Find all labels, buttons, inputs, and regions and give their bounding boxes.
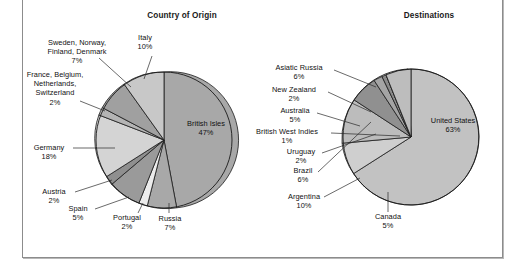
right-pie (342, 69, 479, 205)
left-center-label: British Isles 47% (176, 119, 236, 138)
label-germany: Germany 18% (24, 143, 74, 161)
slice-british-isles (164, 72, 239, 208)
label-russia: Russia 7% (150, 214, 190, 232)
label-italy: Italy 10% (124, 33, 166, 51)
label-british-west-indies: British West Indies 1% (243, 127, 331, 145)
right-center-label-name: United States (420, 116, 486, 125)
label-austria: Austria 2% (33, 187, 75, 205)
label-brazil: Brazil 6% (284, 166, 322, 184)
label-canada: Canada 5% (367, 212, 409, 230)
label-argentina: Argentina 10% (278, 192, 330, 210)
right-center-label: United States 63% (420, 116, 486, 135)
label-spain: Spain 5% (60, 204, 96, 222)
right-center-label-pct: 63% (420, 125, 486, 134)
left-pie (95, 72, 239, 209)
label-asiatic-russia: Asiatic Russia 6% (264, 63, 334, 81)
label-australia: Australia 5% (270, 106, 320, 124)
label-france-benelux-switzerland: France, Belgium, Netherlands, Switzerlan… (8, 70, 102, 107)
figure-canvas: Country of Origin Destinations (0, 0, 518, 271)
label-scandinavia: Sweden, Norway, Finland, Denmark 7% (27, 38, 127, 66)
label-portugal: Portugal 2% (103, 213, 151, 231)
label-new-zealand: New Zealand 2% (260, 85, 328, 103)
label-uruguay: Uruguay 2% (278, 147, 324, 165)
left-center-label-pct: 47% (176, 128, 236, 137)
left-center-label-name: British Isles (176, 119, 236, 128)
